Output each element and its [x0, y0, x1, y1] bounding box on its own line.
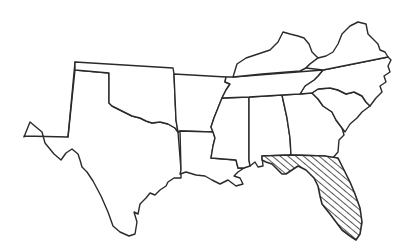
southern-us-map [0, 0, 412, 250]
state-kentucky [233, 32, 318, 77]
map-svg [0, 0, 412, 250]
state-florida [262, 155, 362, 240]
